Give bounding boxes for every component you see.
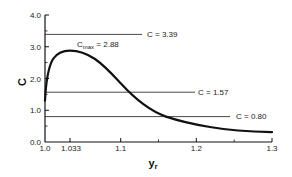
x-axis-title-sub: r — [155, 162, 158, 171]
y-tick-label: 3.0 — [30, 43, 42, 52]
x-tick-label: 1.1 — [115, 144, 127, 153]
ref-label-339: C = 3.39 — [147, 30, 178, 39]
cmax-sub: max — [83, 44, 94, 50]
x-axis-title: yr — [148, 157, 157, 171]
x-tick-label: 1.2 — [191, 144, 203, 153]
ref-label-157: C = 1.57 — [198, 88, 229, 97]
y-axis-title: C — [16, 78, 28, 86]
x-tick-label: 1.3 — [266, 144, 278, 153]
y-tick-labels: 4.0 3.0 2.0 1.0 0.0 — [30, 11, 42, 147]
x-tick-label: 1.0 — [39, 144, 51, 153]
y-tick-label: 4.0 — [30, 11, 42, 20]
y-tick-label: 2.0 — [30, 75, 42, 84]
chart: 4.0 3.0 2.0 1.0 0.0 1.0 1.033 1.1 1.2 1.… — [0, 0, 292, 177]
cmax-value: = 2.88 — [94, 40, 119, 49]
x-tick-labels: 1.0 1.033 1.1 1.2 1.3 — [39, 144, 278, 153]
cmax-annotation: Cmax = 2.88 — [77, 40, 119, 50]
x-tick-label: 1.033 — [61, 144, 82, 153]
ref-label-080: C = 0.80 — [236, 112, 267, 121]
y-tick-label: 1.0 — [30, 106, 42, 115]
